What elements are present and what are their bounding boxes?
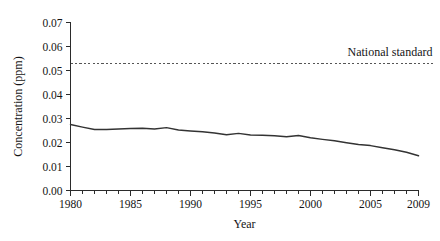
y-axis-tick-label: 0.07: [42, 17, 62, 29]
x-axis-tick-label: 1980: [59, 198, 82, 210]
y-axis-tick-label: 0.02: [42, 137, 62, 149]
y-axis-tick-label: 0.01: [42, 161, 62, 173]
annotation-labels: National standard: [348, 45, 433, 59]
x-axis-tick-label: 1985: [119, 198, 142, 210]
y-axis-tick-label: 0.03: [42, 113, 62, 125]
y-axis-tick-label: 0.00: [42, 185, 62, 197]
y-axis-tick-label: 0.05: [42, 65, 62, 77]
line-chart: 0.000.010.020.030.040.050.060.07 1980198…: [0, 0, 440, 241]
x-axis-tick-label: 2000: [299, 198, 322, 210]
y-axis-tick-label: 0.04: [42, 89, 62, 101]
national-standard-label: National standard: [348, 45, 433, 59]
y-axis-title: Concentration (ppm): [11, 56, 25, 156]
x-axis-title: Year: [233, 217, 255, 231]
x-axis-tick-label: 1995: [239, 198, 262, 210]
x-axis-tick-label: 2005: [359, 198, 382, 210]
chart-figure: 0.000.010.020.030.040.050.060.07 1980198…: [0, 0, 440, 241]
x-axis-tick-label: 1990: [179, 198, 202, 210]
x-axis-tick-label: 2009: [407, 198, 430, 210]
y-axis-tick-label: 0.06: [42, 41, 62, 53]
